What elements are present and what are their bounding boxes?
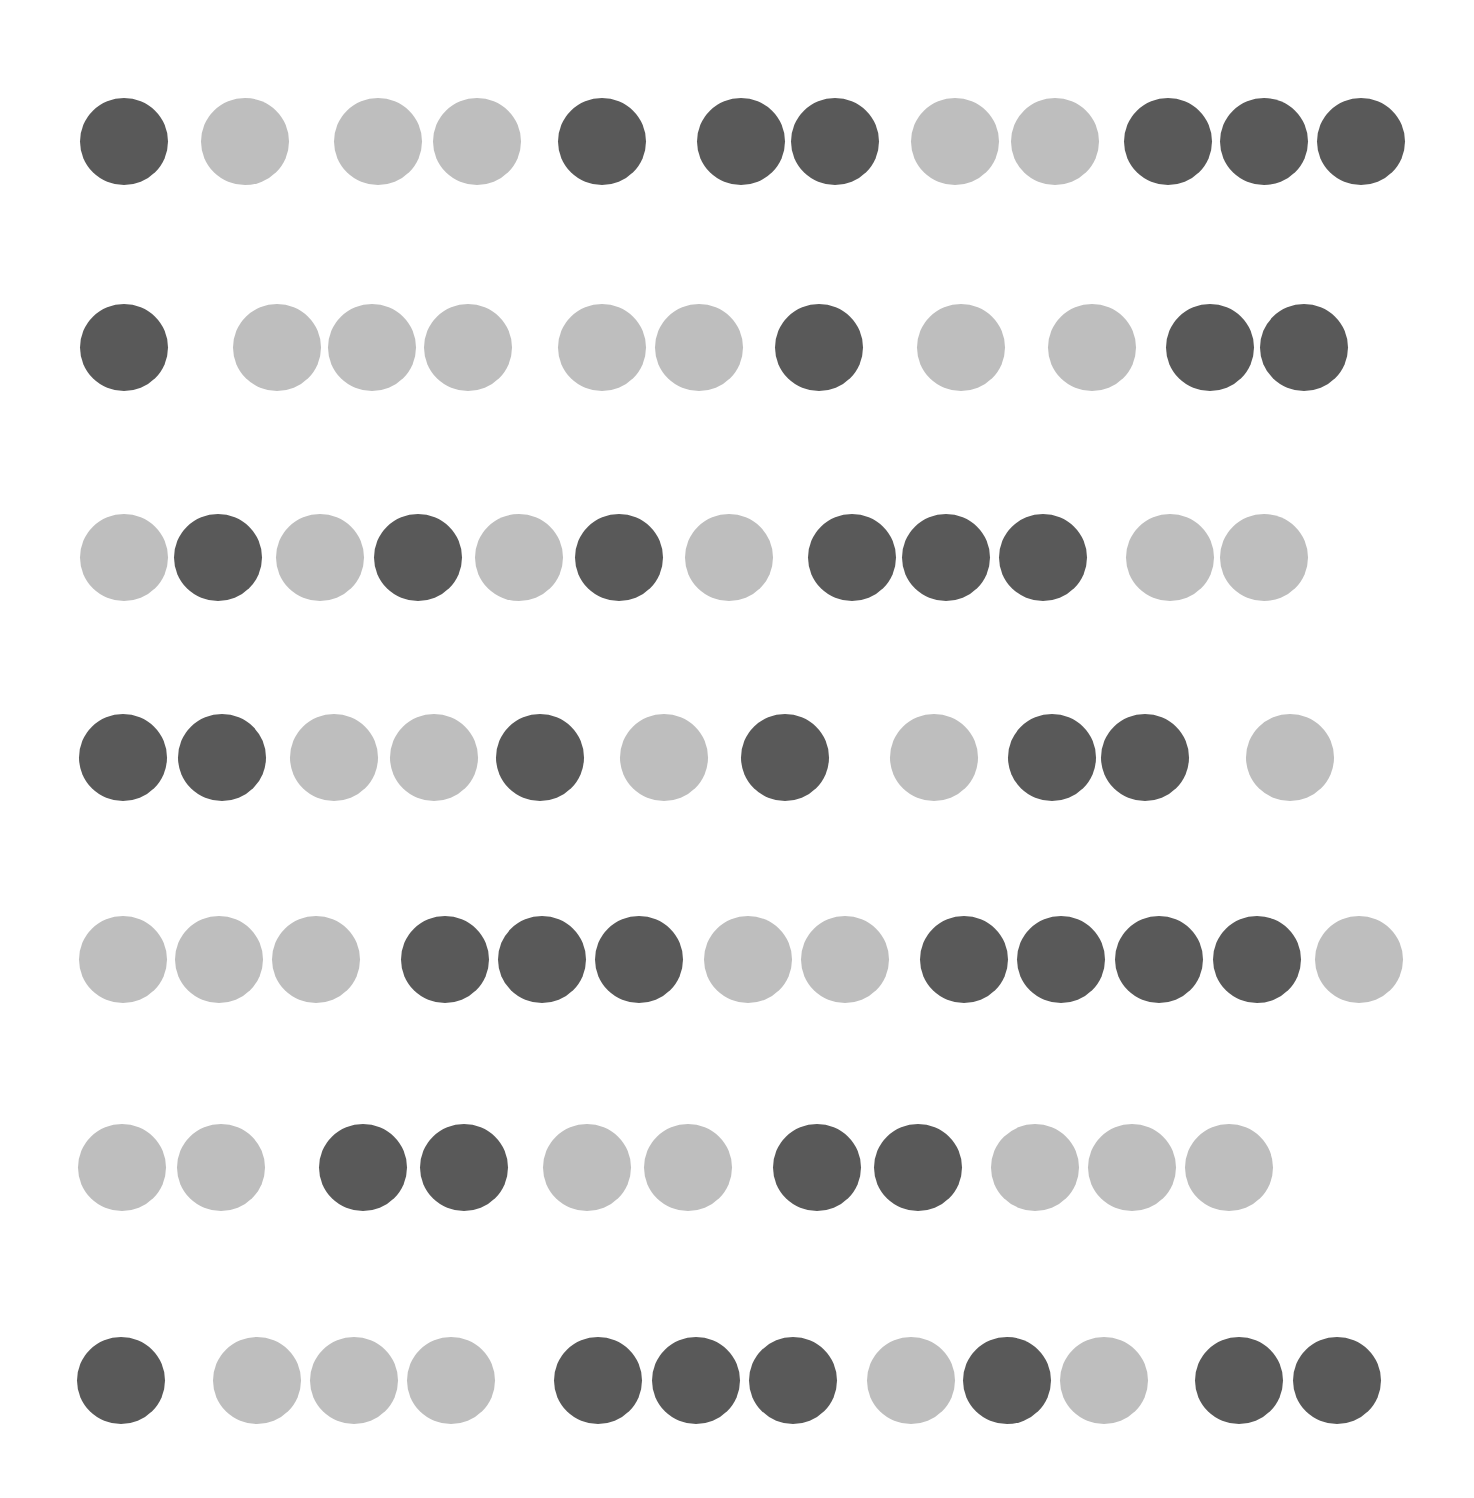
dot-row-4 <box>0 714 1474 802</box>
light-circle-icon <box>917 304 1005 391</box>
dark-circle-icon <box>1260 304 1348 391</box>
dark-circle-icon <box>652 1337 740 1424</box>
dark-circle-icon <box>963 1337 1051 1424</box>
light-circle-icon <box>704 916 792 1003</box>
light-circle-icon <box>390 714 478 801</box>
dark-circle-icon <box>1220 98 1308 185</box>
dark-circle-icon <box>77 1337 165 1424</box>
light-circle-icon <box>685 514 773 601</box>
light-circle-icon <box>543 1124 631 1211</box>
dark-circle-icon <box>773 1124 861 1211</box>
dark-circle-icon <box>902 514 990 601</box>
light-circle-icon <box>433 98 521 185</box>
light-circle-icon <box>890 714 978 801</box>
dark-circle-icon <box>741 714 829 801</box>
light-circle-icon <box>334 98 422 185</box>
dark-circle-icon <box>999 514 1087 601</box>
light-circle-icon <box>290 714 378 801</box>
light-circle-icon <box>558 304 646 391</box>
dot-row-1 <box>0 98 1474 186</box>
light-circle-icon <box>1011 98 1099 185</box>
dark-circle-icon <box>920 916 1008 1003</box>
dark-circle-icon <box>874 1124 962 1211</box>
dark-circle-icon <box>1213 916 1301 1003</box>
light-circle-icon <box>1126 514 1214 601</box>
light-circle-icon <box>911 98 999 185</box>
light-circle-icon <box>177 1124 265 1211</box>
dark-circle-icon <box>697 98 785 185</box>
dot-row-6 <box>0 1124 1474 1212</box>
light-circle-icon <box>1220 514 1308 601</box>
dark-circle-icon <box>1124 98 1212 185</box>
dot-row-7 <box>0 1337 1474 1425</box>
dark-circle-icon <box>554 1337 642 1424</box>
dark-circle-icon <box>420 1124 508 1211</box>
light-circle-icon <box>424 304 512 391</box>
light-circle-icon <box>407 1337 495 1424</box>
dark-circle-icon <box>808 514 896 601</box>
light-circle-icon <box>233 304 321 391</box>
dark-circle-icon <box>749 1337 837 1424</box>
light-circle-icon <box>1315 916 1403 1003</box>
dark-circle-icon <box>1115 916 1203 1003</box>
light-circle-icon <box>175 916 263 1003</box>
dark-circle-icon <box>575 514 663 601</box>
dark-circle-icon <box>1195 1337 1283 1424</box>
light-circle-icon <box>276 514 364 601</box>
dark-circle-icon <box>1166 304 1254 391</box>
dark-circle-icon <box>80 304 168 391</box>
light-circle-icon <box>867 1337 955 1424</box>
dark-circle-icon <box>1317 98 1405 185</box>
light-circle-icon <box>801 916 889 1003</box>
dot-pattern-canvas <box>0 0 1474 1498</box>
light-circle-icon <box>1088 1124 1176 1211</box>
light-circle-icon <box>991 1124 1079 1211</box>
dark-circle-icon <box>1101 714 1189 801</box>
dark-circle-icon <box>498 916 586 1003</box>
light-circle-icon <box>201 98 289 185</box>
light-circle-icon <box>1246 714 1334 801</box>
dark-circle-icon <box>775 304 863 391</box>
dark-circle-icon <box>791 98 879 185</box>
light-circle-icon <box>328 304 416 391</box>
dark-circle-icon <box>595 916 683 1003</box>
light-circle-icon <box>655 304 743 391</box>
light-circle-icon <box>80 514 168 601</box>
dark-circle-icon <box>496 714 584 801</box>
dark-circle-icon <box>1017 916 1105 1003</box>
dark-circle-icon <box>319 1124 407 1211</box>
dark-circle-icon <box>558 98 646 185</box>
light-circle-icon <box>475 514 563 601</box>
light-circle-icon <box>310 1337 398 1424</box>
dark-circle-icon <box>79 714 167 801</box>
light-circle-icon <box>620 714 708 801</box>
light-circle-icon <box>78 1124 166 1211</box>
dark-circle-icon <box>1293 1337 1381 1424</box>
light-circle-icon <box>1060 1337 1148 1424</box>
light-circle-icon <box>644 1124 732 1211</box>
dark-circle-icon <box>178 714 266 801</box>
light-circle-icon <box>1048 304 1136 391</box>
dot-row-3 <box>0 514 1474 602</box>
light-circle-icon <box>1185 1124 1273 1211</box>
dark-circle-icon <box>374 514 462 601</box>
dark-circle-icon <box>174 514 262 601</box>
light-circle-icon <box>79 916 167 1003</box>
dark-circle-icon <box>80 98 168 185</box>
dark-circle-icon <box>1008 714 1096 801</box>
dark-circle-icon <box>401 916 489 1003</box>
light-circle-icon <box>272 916 360 1003</box>
light-circle-icon <box>213 1337 301 1424</box>
dot-row-2 <box>0 304 1474 392</box>
dot-row-5 <box>0 916 1474 1004</box>
